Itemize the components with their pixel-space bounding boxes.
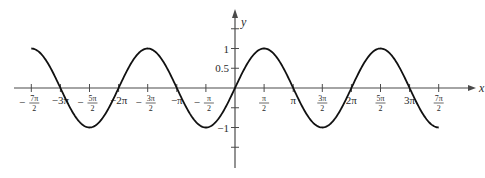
svg-text:3π: 3π <box>147 94 155 103</box>
svg-text:−: − <box>135 96 141 108</box>
svg-text:2: 2 <box>379 104 383 113</box>
y-axis-label: y <box>240 15 247 29</box>
x-axis-arrow-icon <box>468 85 476 91</box>
svg-text:2: 2 <box>149 104 153 113</box>
x-tick-fraction-label: −3π2 <box>135 94 155 113</box>
x-tick-fraction-label: 5π2 <box>376 94 386 113</box>
svg-text:π: π <box>262 94 266 103</box>
y-tick-label: 0.5 <box>215 62 229 74</box>
y-axis-arrow-icon <box>232 9 238 18</box>
svg-text:2: 2 <box>90 104 94 113</box>
x-tick-fraction-label: −7π2 <box>19 94 39 113</box>
x-tick-fraction-label: −5π2 <box>77 94 97 113</box>
x-tick-fraction-label: −π2 <box>194 94 214 113</box>
svg-text:2: 2 <box>437 104 441 113</box>
x-axis-label: x <box>478 81 485 95</box>
y-tick-label: 1 <box>224 43 230 55</box>
svg-text:5π: 5π <box>88 94 96 103</box>
x-tick-label: π <box>290 94 296 106</box>
svg-text:−: − <box>77 96 83 108</box>
svg-text:3π: 3π <box>318 94 326 103</box>
x-tick-fraction-label: π2 <box>259 94 269 113</box>
svg-text:−: − <box>194 96 200 108</box>
svg-text:2: 2 <box>32 104 36 113</box>
svg-text:π: π <box>207 94 211 103</box>
svg-text:5π: 5π <box>376 94 384 103</box>
axes: x y <box>14 9 485 168</box>
svg-text:2: 2 <box>262 104 266 113</box>
sine-chart: x y −7π2−3π−5π2−2π−3π2−π−π2π2π3π22π5π23π… <box>0 0 485 178</box>
svg-text:7π: 7π <box>435 94 443 103</box>
x-tick-fraction-label: 7π2 <box>434 94 444 113</box>
x-tick-fraction-label: 3π2 <box>317 94 327 113</box>
svg-text:−: − <box>19 96 25 108</box>
y-tick-label: −1 <box>217 122 229 134</box>
svg-text:7π: 7π <box>30 94 38 103</box>
svg-text:2: 2 <box>207 104 211 113</box>
svg-text:2: 2 <box>320 104 324 113</box>
